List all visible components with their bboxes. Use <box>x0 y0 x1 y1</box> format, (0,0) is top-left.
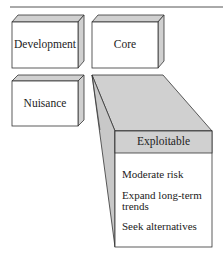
core-label: Core <box>92 38 158 50</box>
exploitable-title: Exploitable <box>115 135 212 147</box>
item-expand-line2: trends <box>122 201 149 212</box>
item-seek-alternatives: Seek alternatives <box>122 221 197 232</box>
nuisance-label: Nuisance <box>12 97 78 109</box>
item-moderate-risk: Moderate risk <box>122 169 183 180</box>
development-label: Development <box>12 38 78 50</box>
